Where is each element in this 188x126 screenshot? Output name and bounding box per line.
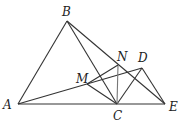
segment-de (142, 68, 165, 104)
label-c: C (113, 109, 122, 123)
label-e: E (168, 100, 178, 114)
segment-be (67, 21, 165, 104)
label-m: M (75, 72, 89, 86)
segment-mc (87, 84, 117, 104)
label-b: B (61, 5, 71, 19)
geometry-diagram: A B C D E M N (0, 0, 188, 126)
label-n: N (116, 50, 128, 64)
label-d: D (137, 51, 148, 65)
segment-nc (117, 65, 118, 104)
segment-bc (67, 21, 117, 104)
label-a: A (2, 98, 12, 112)
segment-mn (87, 65, 118, 84)
